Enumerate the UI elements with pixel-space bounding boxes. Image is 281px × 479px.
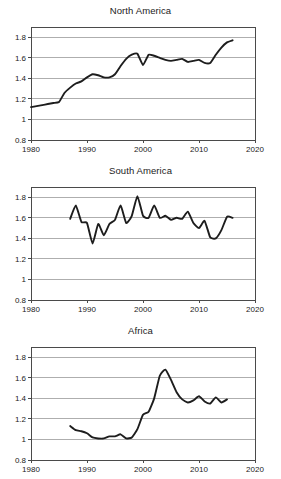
chart-panel-north-america: North America 0.811.21.41.61.81980199020… [0,0,281,160]
chart-panel-africa: Africa 0.811.21.41.61.819801990200020102… [0,320,281,479]
y-tick-label: 1 [22,435,27,444]
x-axis-ticks: 19801990200020102020 [22,140,264,154]
y-tick-label: 1.4 [15,234,27,243]
y-tick-label: 0.8 [15,456,27,465]
y-tick-label: 0.8 [15,296,27,305]
y-tick-label: 1.4 [15,74,27,83]
data-series-line [31,40,233,107]
y-axis-ticks: 0.811.21.41.61.8 [15,33,31,145]
y-tick-label: 1.4 [15,394,27,403]
y-tick-label: 1.6 [15,214,27,223]
y-axis-ticks: 0.811.21.41.61.8 [15,353,31,465]
y-axis-ticks: 0.811.21.41.61.8 [15,193,31,305]
y-tick-label: 1.2 [15,255,27,264]
x-tick-label: 2010 [190,145,208,154]
gridlines [31,37,255,140]
x-tick-label: 2010 [190,305,208,314]
plot-north-america: 0.811.21.41.61.819801990200020102020 [0,0,281,160]
plot-frame [31,187,255,300]
chart-panel-south-america: South America 0.811.21.41.61.81980199020… [0,160,281,320]
gridlines [31,357,255,460]
x-tick-label: 2020 [246,145,264,154]
y-tick-label: 1.8 [15,353,27,362]
plot-frame [31,347,255,460]
x-tick-label: 2000 [134,145,152,154]
chart-figure: North America 0.811.21.41.61.81980199020… [0,0,281,479]
y-tick-label: 1.2 [15,415,27,424]
x-tick-label: 1980 [22,145,40,154]
x-tick-label: 1980 [22,305,40,314]
y-tick-label: 1.6 [15,54,27,63]
x-axis-ticks: 19801990200020102020 [22,300,264,314]
y-tick-label: 1 [22,115,27,124]
x-tick-label: 1990 [78,305,96,314]
data-series-line [70,196,232,243]
x-tick-label: 1980 [22,465,40,474]
x-axis-ticks: 19801990200020102020 [22,460,264,474]
x-tick-label: 2020 [246,465,264,474]
x-tick-label: 2000 [134,305,152,314]
y-tick-label: 1.6 [15,374,27,383]
y-tick-label: 1.8 [15,193,27,202]
x-tick-label: 2000 [134,465,152,474]
plot-frame [31,27,255,140]
data-series-line [70,370,227,439]
y-tick-label: 1.8 [15,33,27,42]
x-tick-label: 1990 [78,465,96,474]
y-tick-label: 1.2 [15,95,27,104]
plot-south-america: 0.811.21.41.61.819801990200020102020 [0,160,281,320]
y-tick-label: 0.8 [15,136,27,145]
x-tick-label: 2020 [246,305,264,314]
x-tick-label: 2010 [190,465,208,474]
x-tick-label: 1990 [78,145,96,154]
plot-africa: 0.811.21.41.61.819801990200020102020 [0,320,281,479]
y-tick-label: 1 [22,275,27,284]
